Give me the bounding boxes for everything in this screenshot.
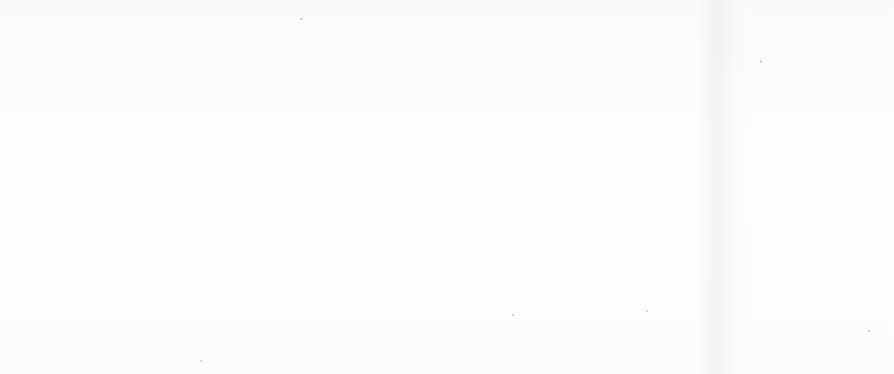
x-tick-label: 1975 <box>488 317 512 329</box>
x-tick-label: 1965 <box>298 317 322 329</box>
x-tick-label: 1945 <box>88 317 112 329</box>
y-tick-label: 0.2 <box>474 190 489 202</box>
x-tick-label: 1985 <box>672 317 696 329</box>
x-tick-label: 1990 <box>764 317 788 329</box>
y-tick-label: 0.4 <box>474 82 490 94</box>
y-tick-label: 0.1 <box>474 243 489 255</box>
x-tick-label: 1940 <box>36 317 60 329</box>
y-tick-label: 0.1 <box>22 243 37 255</box>
data-line <box>500 130 868 139</box>
x-tick-label: 1995 <box>856 317 880 329</box>
x-axis-title: Year <box>220 336 244 348</box>
y-tick-label: 0 <box>31 297 37 309</box>
data-line <box>48 128 415 300</box>
x-tick-label: 1950 <box>141 317 165 329</box>
plot-frame <box>500 88 868 303</box>
y-tick-label: 0.3 <box>22 136 37 148</box>
y-tick-label: 0 <box>483 297 489 309</box>
chart-panel-left: Ratio of Social Security beneficiaries t… <box>0 0 450 374</box>
chart-panel-right: Ratio of Social Security beneficiaries t… <box>450 0 894 374</box>
line-chart-left: 00.10.20.30.4194019451950195519601965197… <box>0 0 450 374</box>
x-tick-label: 1970 <box>350 317 374 329</box>
plot-frame <box>48 88 415 303</box>
x-axis-title: Year <box>672 336 696 348</box>
x-tick-label: 1980 <box>580 317 604 329</box>
x-tick-label: 1975 <box>403 317 427 329</box>
y-tick-label: 0.3 <box>474 136 489 148</box>
x-tick-label: 1960 <box>245 317 269 329</box>
line-chart-right: 00.10.20.30.419751980198519901995Year <box>450 0 894 374</box>
y-tick-label: 0.2 <box>22 190 37 202</box>
y-tick-label: 0.4 <box>22 82 38 94</box>
x-tick-label: 1955 <box>193 317 217 329</box>
